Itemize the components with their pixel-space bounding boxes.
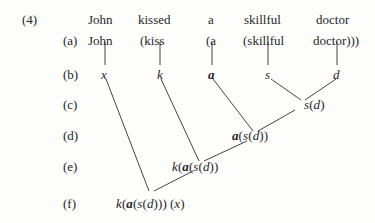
row-f-part-2: a	[126, 196, 133, 211]
row-c-expression: s(d)	[304, 98, 325, 111]
sentence-word-skillful: skillful	[244, 13, 281, 26]
row-label-a: (a)	[63, 34, 77, 47]
row-b-symbol-x: x	[101, 68, 107, 81]
row-label-d: (d)	[63, 129, 78, 142]
figure-number: (4)	[22, 13, 37, 26]
row-e-part-6: d	[203, 159, 210, 174]
row-e-part-2: a	[182, 159, 189, 174]
link-a-to-asd	[213, 79, 253, 131]
link-asd-to-kasd	[204, 141, 247, 161]
row-a-token-kiss: (kiss	[140, 34, 165, 47]
link-s-to-sd	[271, 79, 301, 100]
sentence-word-a: a	[208, 13, 214, 26]
link-x-to-final	[106, 79, 149, 191]
row-f-part-7: )))	[154, 196, 167, 211]
sentence-word-john: John	[88, 13, 113, 26]
sentence-word-kissed: kissed	[138, 13, 171, 26]
row-a-token-doctor: doctor)))	[313, 34, 359, 47]
row-a-token-skillful: (skillful	[243, 34, 284, 47]
row-d-part-0: a	[232, 128, 239, 143]
link-kasd-to-final	[154, 171, 193, 191]
row-e-expression: k(a(s(d))	[172, 160, 218, 173]
sentence-word-doctor: doctor	[316, 13, 349, 26]
row-b-symbol-d: d	[333, 68, 340, 81]
link-k-to-kasd	[161, 79, 199, 161]
row-b-symbol-k: k	[157, 68, 163, 81]
row-label-c: (c)	[63, 98, 77, 111]
row-a-token-john: John	[88, 34, 113, 47]
row-d-expression: a(s(d))	[232, 129, 268, 142]
row-c-part-3: )	[320, 97, 324, 112]
row-e-part-7: ))	[210, 159, 219, 174]
row-f-part-10: )	[180, 196, 184, 211]
row-d-part-5: ))	[259, 128, 268, 143]
row-label-e: (e)	[63, 160, 77, 173]
derivation-figure: (4) John kissed a skillful doctor (a) Jo…	[0, 0, 375, 223]
row-f-expression: k(a(s(d)))(x)	[116, 197, 185, 210]
row-b-symbol-s: s	[265, 68, 270, 81]
row-a-token-a: (a	[206, 34, 216, 47]
row-label-f: (f)	[63, 197, 76, 210]
row-label-b: (b)	[63, 68, 78, 81]
row-b-symbol-a: a	[208, 68, 215, 81]
row-f-part-6: d	[147, 196, 154, 211]
